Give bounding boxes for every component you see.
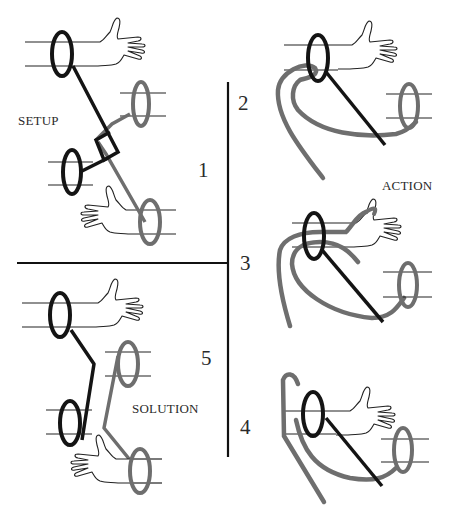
step-number-2: 2 [238,93,249,114]
panel-setup [25,18,176,244]
puzzle-diagram: SETUP ACTION SOLUTION 1 2 3 4 5 [0,0,455,521]
black-ring-icon [63,150,81,194]
action-label: ACTION [382,179,432,192]
step-number-5: 5 [201,348,212,369]
step-number-1: 1 [198,160,209,181]
gray-ring-icon [133,82,149,126]
black-ring-icon [52,32,72,76]
setup-label: SETUP [18,114,59,127]
step-number-3: 3 [240,253,251,274]
panel-action-4 [283,374,429,502]
panel-action-3 [279,199,432,326]
panel-action-2 [278,21,432,178]
step-number-4: 4 [240,417,251,438]
solution-label: SOLUTION [132,402,199,415]
panel-solution [22,279,162,493]
